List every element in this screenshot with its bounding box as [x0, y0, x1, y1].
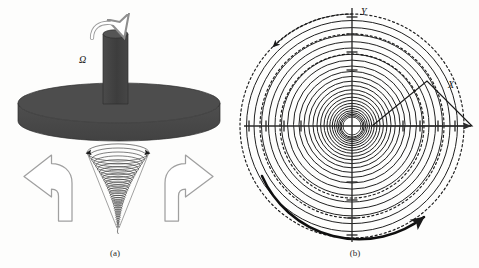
figure-root: Y X Ω (a) (b) — [0, 0, 479, 268]
panel-b-group — [240, 8, 472, 242]
angular-velocity-label: Ω — [79, 54, 86, 65]
figure-canvas — [0, 0, 479, 268]
vortex-funnel — [87, 144, 149, 234]
panel-a-caption: (a) — [95, 248, 135, 258]
shaft-top — [103, 30, 128, 38]
x-axis-label: X — [448, 79, 454, 90]
y-axis-label: Y — [361, 6, 367, 17]
vortex-arrow-right — [144, 150, 150, 156]
panel-a-group — [18, 23, 220, 234]
flow-arrow-right — [165, 155, 213, 221]
panel-b-caption: (b) — [335, 248, 375, 258]
flow-arc-upper — [273, 14, 352, 47]
flow-arrow-left — [24, 155, 72, 221]
shaft-body — [103, 34, 128, 104]
vortex-arrow-left — [86, 150, 92, 156]
